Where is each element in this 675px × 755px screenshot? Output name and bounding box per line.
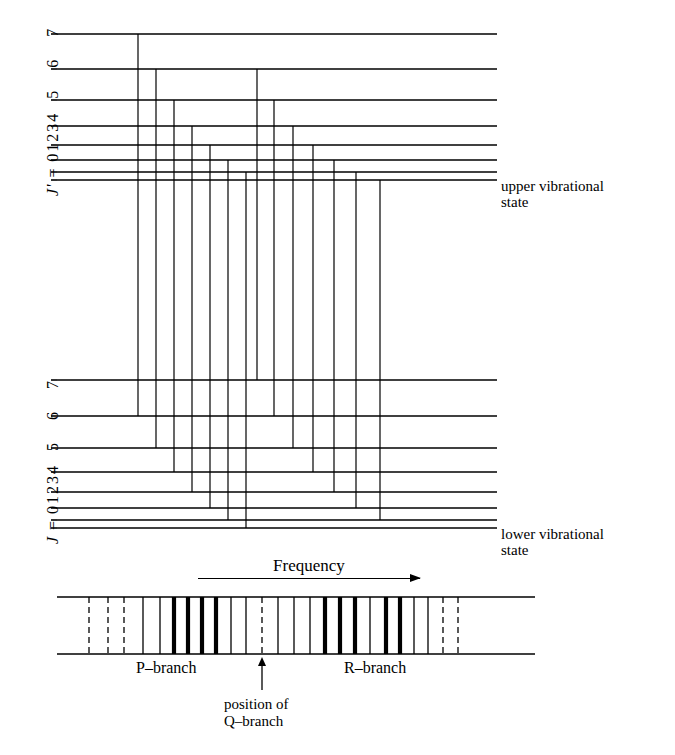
q-branch-position-note: position of Q–branch <box>224 696 289 731</box>
lower-axis-label-number-6: 6 <box>44 411 61 420</box>
lower-axis-label-number-7: 7 <box>44 380 61 389</box>
upper-axis-label-number-2: 2 <box>44 133 61 142</box>
rovibrational-energy-level-diagram: J' = 01234567 J = 01234567 upper vibrati… <box>0 0 675 755</box>
upper-axis-label-number-5: 5 <box>44 90 61 99</box>
diagram-canvas <box>0 0 675 755</box>
lower-axis-label-prefix: J = <box>44 514 61 544</box>
lower-axis-label-number-4: 4 <box>44 465 61 474</box>
frequency-axis-label: Frequency <box>198 556 420 576</box>
spectrum-axis-box <box>57 597 535 654</box>
frequency-arrow-head <box>410 574 421 582</box>
transition-line-group <box>138 34 380 528</box>
r-branch-label: R–branch <box>344 659 406 677</box>
lower-state-axis-label: J = 01234567 <box>44 358 62 544</box>
spectrum-line-group <box>89 597 458 654</box>
lower-axis-label-number-3: 3 <box>44 475 61 484</box>
lower-vibrational-level-group <box>57 380 497 528</box>
q-branch-pointer-head <box>258 657 266 666</box>
p-branch-label: P–branch <box>136 659 196 677</box>
upper-vibrational-level-group <box>57 34 497 180</box>
upper-axis-label-number-0: 0 <box>44 153 61 162</box>
upper-state-axis-label: J' = 01234567 <box>44 6 62 196</box>
upper-vibrational-state-annotation: upper vibrational state <box>501 178 604 210</box>
frequency-arrow-line <box>198 578 420 579</box>
lower-axis-label-number-0: 0 <box>44 505 61 514</box>
lower-vibrational-state-annotation: lower vibrational state <box>501 526 604 558</box>
q-branch-pointer-arrow <box>258 657 266 690</box>
lower-axis-label-number-1: 1 <box>44 495 61 504</box>
upper-axis-label-number-1: 1 <box>44 143 61 152</box>
frequency-axis: Frequency <box>198 556 420 579</box>
upper-axis-label-prefix: J' = <box>44 162 61 196</box>
lower-axis-label-number-2: 2 <box>44 485 61 494</box>
upper-axis-label-number-3: 3 <box>44 123 61 132</box>
lower-axis-label-number-5: 5 <box>44 442 61 451</box>
upper-axis-label-number-4: 4 <box>44 113 61 122</box>
upper-axis-label-number-6: 6 <box>44 59 61 68</box>
upper-axis-label-number-7: 7 <box>44 28 61 37</box>
